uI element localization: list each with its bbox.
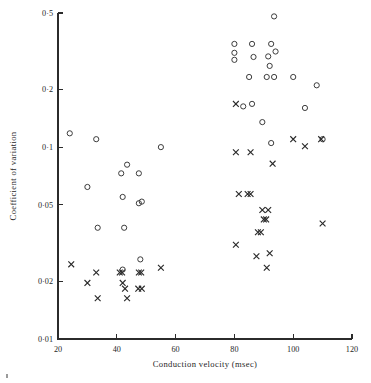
point-circle-0	[67, 131, 72, 136]
data-points	[67, 14, 325, 301]
point-cross-6	[158, 265, 164, 271]
x-tick-label-3: 80	[230, 345, 238, 354]
x-tick-label-5: 120	[346, 345, 358, 354]
point-circle-23	[271, 14, 276, 19]
point-circle-19	[269, 41, 274, 46]
point-cross-19	[302, 143, 308, 149]
point-cross-18	[290, 136, 296, 142]
point-circle-6	[136, 171, 141, 176]
page-speck	[6, 374, 8, 378]
x-tick-label-0: 20	[54, 345, 62, 354]
point-circle-25	[264, 74, 269, 79]
point-cross-17	[270, 161, 276, 167]
point-cross-28	[255, 229, 261, 235]
y-tick-label-2: 0·05	[38, 201, 53, 210]
point-circle-29	[241, 104, 246, 109]
plot-canvas: 0·010·020·050·10·20·520406080100120 Cond…	[0, 0, 371, 383]
point-cross-25	[265, 207, 271, 213]
y-axis-label: Coefficient of variation	[8, 131, 18, 220]
axis-ticks	[58, 13, 352, 339]
point-circle-11	[122, 225, 127, 230]
point-circle-2	[158, 145, 163, 150]
point-circle-21	[273, 49, 278, 54]
x-tick-label-2: 60	[172, 345, 180, 354]
point-circle-5	[119, 171, 124, 176]
point-circle-1	[94, 137, 99, 142]
scatter-plot-figure: 0·010·020·050·10·20·520406080100120 Cond…	[0, 0, 371, 383]
y-tick-label-3: 0·1	[42, 143, 53, 152]
point-cross-32	[267, 250, 273, 256]
point-circle-7	[120, 194, 125, 199]
point-circle-28	[314, 83, 319, 88]
point-cross-29	[258, 229, 264, 235]
point-cross-15	[233, 149, 239, 155]
y-tick-label-1: 0·02	[38, 277, 53, 286]
x-axis-label: Conduction velocity (msec)	[153, 359, 258, 369]
point-cross-1	[93, 270, 99, 276]
point-cross-24	[259, 207, 265, 213]
x-tick-label-1: 40	[113, 345, 121, 354]
axis-tick-labels: 0·010·020·050·10·20·520406080100120	[38, 9, 358, 354]
point-cross-11	[139, 286, 145, 292]
point-circle-20	[266, 54, 271, 59]
point-circle-4	[124, 162, 129, 167]
point-cross-8	[120, 280, 126, 286]
point-circle-24	[247, 74, 252, 79]
point-cross-14	[233, 101, 239, 107]
point-circle-18	[251, 54, 256, 59]
point-cross-21	[236, 191, 242, 197]
point-cross-33	[264, 265, 270, 271]
y-tick-label-4: 0·2	[42, 85, 53, 94]
point-cross-23	[248, 191, 254, 197]
axis-spines	[58, 13, 352, 339]
point-cross-31	[254, 253, 260, 259]
point-circle-31	[302, 105, 307, 110]
point-circle-26	[271, 74, 276, 79]
point-circle-30	[249, 101, 254, 106]
point-cross-13	[124, 295, 130, 301]
point-cross-12	[95, 295, 101, 301]
y-tick-label-0: 0·01	[38, 335, 53, 344]
point-circle-14	[232, 41, 237, 46]
point-circle-16	[232, 57, 237, 62]
x-tick-label-4: 100	[287, 345, 299, 354]
point-cross-30	[233, 242, 239, 248]
point-cross-9	[122, 286, 128, 292]
point-circle-32	[260, 120, 265, 125]
point-circle-12	[138, 257, 143, 262]
point-cross-0	[68, 261, 74, 267]
point-circle-27	[291, 74, 296, 79]
point-circle-3	[85, 184, 90, 189]
point-cross-22	[245, 191, 251, 197]
point-circle-17	[249, 41, 254, 46]
point-circle-10	[95, 225, 100, 230]
point-circle-22	[267, 63, 272, 68]
y-tick-label-5: 0·5	[42, 9, 53, 18]
axes	[58, 13, 352, 339]
point-cross-7	[85, 280, 91, 286]
point-circle-33	[269, 140, 274, 145]
point-cross-16	[248, 149, 254, 155]
point-cross-34	[320, 221, 326, 227]
point-circle-15	[232, 50, 237, 55]
